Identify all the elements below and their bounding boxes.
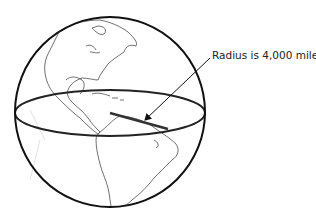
amazon-mouth xyxy=(154,140,158,148)
caribbean-islands xyxy=(92,93,124,100)
faint-guide-line xyxy=(30,110,45,180)
globe-diagram xyxy=(0,0,316,218)
radius-line xyxy=(110,113,168,129)
hudson-bay xyxy=(92,26,106,35)
continents xyxy=(45,20,178,210)
south-america-outline xyxy=(96,116,178,210)
great-lakes xyxy=(86,45,100,53)
radius-annotation: Radius is 4,000 miles. xyxy=(212,49,316,61)
globe-outline xyxy=(15,17,205,207)
annotation-arrow xyxy=(145,58,210,120)
